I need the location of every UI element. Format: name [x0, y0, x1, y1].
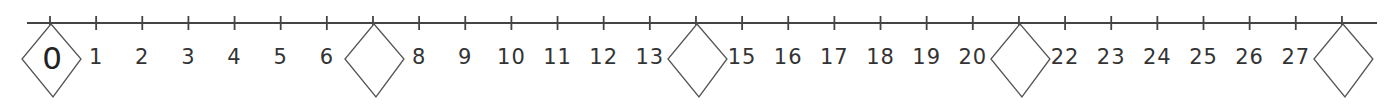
tick-label: 5 [274, 44, 288, 70]
tick-label: 19 [912, 44, 941, 70]
tick-label: 24 [1143, 44, 1172, 70]
tick-label: 6 [320, 44, 334, 70]
tick-label: 10 [497, 44, 526, 70]
tick-label: 20 [958, 44, 987, 70]
tick-label: 3 [181, 44, 195, 70]
tick-label: 13 [635, 44, 664, 70]
answer-box-21[interactable] [990, 23, 1050, 97]
answer-box-7[interactable] [344, 23, 404, 97]
tick-label: 22 [1051, 44, 1080, 70]
tick-label: 9 [458, 44, 472, 70]
tick-label: 1 [89, 44, 103, 70]
tick-label: 27 [1281, 44, 1310, 70]
tick-label: 23 [1097, 44, 1126, 70]
tick-label: 2 [135, 44, 149, 70]
tick-label: 15 [728, 44, 757, 70]
answer-box-28[interactable] [1313, 23, 1373, 97]
tick-label: 8 [412, 44, 426, 70]
tick-label: 18 [866, 44, 895, 70]
answer-box-14[interactable] [667, 23, 727, 97]
tick-label: 16 [774, 44, 803, 70]
tick-label: 25 [1189, 44, 1218, 70]
tick-label: 11 [543, 44, 572, 70]
tick-label: 12 [589, 44, 618, 70]
tick-label: 4 [227, 44, 241, 70]
tick-label: 26 [1235, 44, 1264, 70]
tick-label: 17 [820, 44, 849, 70]
diamond-label: 0 [42, 40, 62, 76]
